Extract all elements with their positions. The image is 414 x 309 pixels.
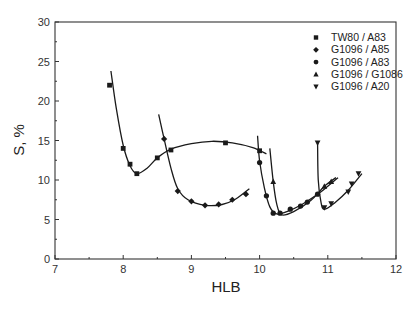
- legend-item: G1096 / A85: [313, 43, 389, 55]
- square-marker-icon: [169, 148, 174, 153]
- legend-item: G1096 / A20: [313, 80, 389, 92]
- legend-label: TW80 / A83: [331, 31, 386, 43]
- square-marker-icon: [128, 162, 133, 167]
- circle-marker-icon: [271, 211, 276, 216]
- series-diamond: [159, 114, 250, 208]
- legend-label: G1096 / A20: [331, 80, 390, 92]
- triangle-down-marker-icon: [315, 140, 321, 146]
- y-tick-label: 30: [38, 16, 50, 28]
- legend-label: G1096 / G1086: [331, 68, 403, 80]
- fit-curve: [258, 136, 338, 214]
- triangle-up-marker-icon: [270, 178, 276, 184]
- fit-curve: [111, 71, 266, 174]
- diamond-marker-icon: [243, 191, 249, 197]
- x-axis: 789101112: [52, 255, 402, 275]
- triangle-down-marker-icon: [313, 85, 318, 90]
- x-tick-label: 10: [253, 263, 265, 275]
- legend-item: G1096 / G1086: [313, 68, 403, 80]
- legend-label: G1096 / A83: [331, 56, 390, 68]
- series-layer: [107, 71, 362, 216]
- diamond-marker-icon: [161, 136, 167, 142]
- y-tick-label: 15: [38, 135, 50, 147]
- square-marker-icon: [223, 140, 228, 145]
- diamond-marker-icon: [202, 202, 208, 208]
- diamond-marker-icon: [313, 47, 319, 53]
- circle-marker-icon: [288, 207, 293, 212]
- y-tick-label: 20: [38, 95, 50, 107]
- x-tick-label: 8: [120, 263, 126, 275]
- legend-item: TW80 / A83: [314, 31, 386, 43]
- series-circle: [257, 136, 338, 216]
- circle-marker-icon: [264, 193, 269, 198]
- square-marker-icon: [134, 171, 139, 176]
- square-marker-icon: [155, 155, 160, 160]
- x-axis-title: HLB: [211, 278, 240, 295]
- legend: TW80 / A83G1096 / A85G1096 / A83G1096 / …: [313, 31, 403, 92]
- square-marker-icon: [314, 35, 318, 39]
- x-tick-label: 9: [188, 263, 194, 275]
- diamond-marker-icon: [216, 201, 222, 207]
- fit-curve: [318, 141, 362, 209]
- y-tick-label: 0: [44, 253, 50, 265]
- circle-marker-icon: [257, 160, 262, 165]
- y-tick-label: 25: [38, 56, 50, 68]
- legend-label: G1096 / A85: [331, 43, 390, 55]
- square-marker-icon: [121, 146, 126, 151]
- diamond-marker-icon: [188, 198, 194, 204]
- y-axis-title: S, %: [10, 124, 27, 156]
- square-marker-icon: [107, 83, 112, 88]
- series-triangle-down: [315, 140, 362, 210]
- x-tick-label: 11: [322, 263, 333, 275]
- circle-marker-icon: [314, 60, 319, 65]
- chart-figure: 789101112 051015202530 TW80 / A83G1096 /…: [0, 0, 414, 309]
- y-tick-label: 10: [38, 174, 50, 186]
- y-axis: 051015202530: [38, 16, 59, 265]
- x-tick-label: 7: [52, 263, 58, 275]
- x-tick-label: 12: [390, 263, 402, 275]
- triangle-up-marker-icon: [313, 72, 318, 77]
- series-square: [107, 71, 266, 176]
- y-tick-label: 5: [44, 214, 50, 226]
- fit-curve: [159, 114, 250, 205]
- legend-item: G1096 / A83: [314, 56, 390, 68]
